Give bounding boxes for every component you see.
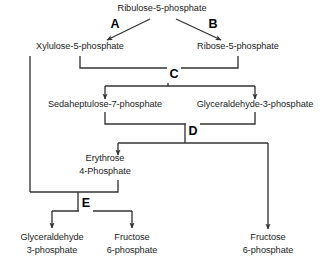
step-label-a: A (110, 17, 119, 31)
metabolite-fructose-6-phosphate-left-line1: Fructose (114, 232, 149, 242)
metabolite-erythrose-4-phosphate-line1: Erythrose (86, 153, 125, 163)
step-label-e: E (82, 196, 90, 210)
metabolite-fructose-6-phosphate-right-line2: 6-phosphate (243, 245, 294, 255)
metabolite-erythrose-4-phosphate-line2: 4-Phosphate (79, 166, 131, 176)
metabolite-glyceraldehyde-3-phosphate-mid: Glyceraldehyde-3-phosphate (197, 99, 314, 109)
metabolite-xylulose-5-phosphate: Xylulose-5-phosphate (36, 41, 124, 51)
step-label-d: D (188, 124, 197, 138)
step-label-c: C (169, 67, 178, 81)
metabolite-ribose-5-phosphate: Ribose-5-phosphate (197, 41, 279, 51)
pathway-canvas: Ribulose-5-phosphate Xylulose-5-phosphat… (0, 0, 325, 271)
metabolite-fructose-6-phosphate-left-line2: 6-phosphate (107, 245, 158, 255)
pathway-diagram: Ribulose-5-phosphate Xylulose-5-phosphat… (0, 0, 325, 271)
metabolite-ribulose-5-phosphate: Ribulose-5-phosphate (118, 3, 207, 13)
metabolite-fructose-6-phosphate-right-line1: Fructose (250, 232, 285, 242)
step-label-b: B (208, 17, 217, 31)
metabolite-glyceraldehyde-3-phosphate-out-line2: 3-phosphate (27, 245, 78, 255)
metabolite-glyceraldehyde-3-phosphate-out-line1: Glyceraldehyde (20, 232, 83, 242)
metabolite-sedaheptulose-7-phosphate: Sedaheptulose-7-phosphate (48, 99, 162, 109)
